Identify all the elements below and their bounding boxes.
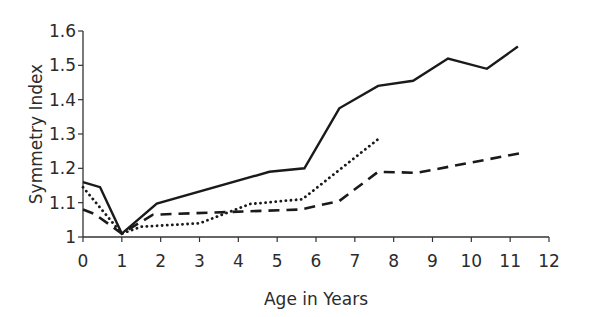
x-tick-label: 12	[538, 251, 560, 271]
x-axis-title: Age in Years	[264, 289, 368, 309]
x-tick-label: 3	[194, 251, 205, 271]
x-tick-label: 10	[461, 251, 483, 271]
y-axis: 11.11.21.31.41.51.6	[49, 21, 83, 247]
y-tick-label: 1.1	[49, 193, 76, 213]
y-axis-title: Symmetry Index	[26, 64, 46, 204]
series-solid-line	[83, 47, 518, 234]
x-tick-label: 2	[155, 251, 166, 271]
series-dashed-line	[83, 153, 522, 234]
x-tick-label: 9	[427, 251, 438, 271]
x-axis: 0123456789101112	[78, 237, 560, 271]
y-tick-label: 1.5	[49, 55, 76, 75]
x-tick-label: 6	[311, 251, 322, 271]
line-chart: 11.11.21.31.41.51.6 0123456789101112 Age…	[0, 0, 596, 317]
y-tick-label: 1	[65, 227, 76, 247]
x-tick-label: 0	[78, 251, 89, 271]
series-layer	[83, 47, 522, 234]
x-tick-label: 8	[388, 251, 399, 271]
x-tick-label: 7	[349, 251, 360, 271]
x-tick-label: 1	[116, 251, 127, 271]
y-tick-label: 1.3	[49, 124, 76, 144]
x-tick-label: 5	[272, 251, 283, 271]
x-tick-label: 4	[233, 251, 244, 271]
y-tick-label: 1.6	[49, 21, 76, 41]
series-dotted-line	[83, 139, 378, 233]
y-tick-label: 1.2	[49, 158, 76, 178]
y-tick-label: 1.4	[49, 90, 76, 110]
x-tick-label: 11	[499, 251, 521, 271]
